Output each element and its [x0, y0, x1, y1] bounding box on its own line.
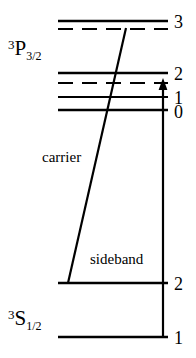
term-subscript-3s12: 1/2	[26, 319, 41, 333]
term-subscript-3p32: 3/2	[26, 49, 41, 63]
level-number-p32-f3: 3	[174, 13, 183, 31]
level-number-p32-f2: 2	[174, 65, 183, 83]
energy-level-diagram: 3P3/2 3S1/2 3 2 1 0 2 1 carrier sideband	[0, 0, 196, 358]
level-number-p32-f0: 0	[174, 103, 183, 121]
term-symbol-3p32: 3P3/2	[8, 38, 42, 62]
level-number-s12-f1: 1	[174, 329, 183, 347]
term-symbol-3s12: 3S1/2	[8, 308, 42, 332]
term-letter-3p32: P	[15, 36, 27, 60]
carrier-transition-label: carrier	[42, 150, 81, 165]
level-number-s12-f2: 2	[174, 275, 183, 293]
sideband-transition-label: sideband	[90, 252, 143, 267]
term-letter-3s12: S	[15, 306, 27, 330]
